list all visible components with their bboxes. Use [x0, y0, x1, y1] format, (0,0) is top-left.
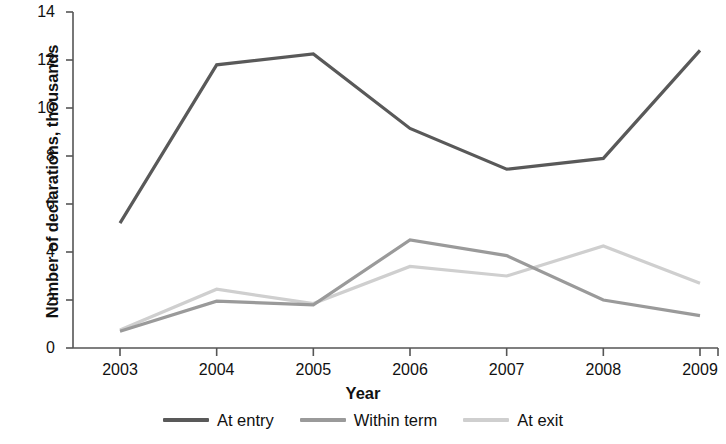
series-line-at-entry	[120, 50, 700, 223]
x-tick-label: 2008	[563, 362, 643, 378]
y-tick-label: 6	[15, 196, 55, 212]
line-chart: Number of declarations, thousands Year 0…	[0, 0, 726, 444]
legend-item-within-term[interactable]: Within term	[300, 412, 437, 429]
y-tick-label: 12	[15, 52, 55, 68]
x-tick-label: 2009	[660, 362, 726, 378]
series-line-within-term	[120, 240, 700, 331]
y-tick-label: 4	[15, 244, 55, 260]
legend-item-at-exit[interactable]: At exit	[463, 412, 563, 429]
y-tick-label: 8	[15, 148, 55, 164]
legend-label: At exit	[517, 412, 563, 429]
y-tick-label: 14	[15, 4, 55, 20]
legend-label: At entry	[217, 412, 274, 429]
x-tick-label: 2007	[467, 362, 547, 378]
legend-line-swatch	[163, 418, 209, 422]
x-tick-label: 2004	[177, 362, 257, 378]
legend-label: Within term	[354, 412, 437, 429]
legend-line-swatch	[463, 418, 509, 422]
x-tick-label: 2005	[273, 362, 353, 378]
legend-line-swatch	[300, 418, 346, 422]
x-tick-label: 2006	[370, 362, 450, 378]
y-tick-label: 2	[15, 292, 55, 308]
chart-legend: At entryWithin termAt exit	[0, 412, 726, 429]
series-line-at-exit	[120, 246, 700, 330]
x-tick-label: 2003	[80, 362, 160, 378]
legend-item-at-entry[interactable]: At entry	[163, 412, 274, 429]
y-tick-label: 10	[15, 100, 55, 116]
y-tick-label: 0	[15, 340, 55, 356]
